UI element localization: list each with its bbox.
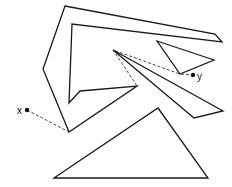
point-y-marker xyxy=(191,73,195,77)
shortest-path-diagram: x y xyxy=(0,0,232,187)
obstacle-c-shape xyxy=(43,6,222,132)
point-x-label: x xyxy=(17,105,22,116)
obstacle-large-triangle xyxy=(54,108,208,178)
obstacle-sliver xyxy=(113,50,223,118)
point-x-marker xyxy=(25,108,29,112)
obstacle-small-triangle xyxy=(157,41,214,74)
point-y-label: y xyxy=(197,71,202,82)
